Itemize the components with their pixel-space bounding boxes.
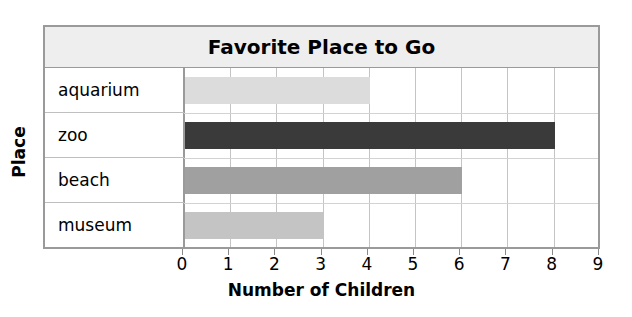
title-band: Favorite Place to Go: [45, 27, 598, 68]
x-tick-label-5: 5: [398, 254, 428, 274]
category-label-aquarium: aquarium: [45, 68, 184, 113]
chart-body: aquarium zoo beach museum: [45, 68, 598, 247]
plot-area: [184, 68, 598, 247]
category-label-zoo: zoo: [45, 113, 184, 158]
x-tick-label-7: 7: [490, 254, 520, 274]
category-label-museum: museum: [45, 203, 184, 248]
row-separator: [184, 113, 598, 114]
bar-beach: [185, 167, 462, 194]
bar-zoo: [185, 122, 555, 149]
category-label-column: aquarium zoo beach museum: [45, 68, 184, 247]
y-axis-title: Place: [8, 102, 30, 202]
chart-frame: Favorite Place to Go aquarium zoo beach …: [43, 25, 600, 249]
x-tick-label-1: 1: [213, 254, 243, 274]
x-tick-label-4: 4: [352, 254, 382, 274]
category-label-beach: beach: [45, 158, 184, 203]
x-axis-title: Number of Children: [43, 280, 600, 300]
x-tick-label-6: 6: [444, 254, 474, 274]
bar-aquarium: [185, 77, 370, 104]
row-separator: [184, 158, 598, 159]
x-tick-label-8: 8: [537, 254, 567, 274]
x-tick-label-0: 0: [167, 254, 197, 274]
x-tick-label-3: 3: [306, 254, 336, 274]
bar-museum: [185, 212, 324, 239]
row-separator: [184, 203, 598, 204]
chart-title: Favorite Place to Go: [45, 27, 598, 68]
x-tick-label-2: 2: [259, 254, 289, 274]
bar-chart: Place Favorite Place to Go aquarium zoo …: [0, 0, 632, 317]
x-tick-label-9: 9: [583, 254, 613, 274]
